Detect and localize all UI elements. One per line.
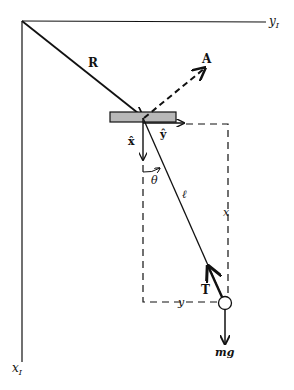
pendulum-bob [219, 297, 232, 310]
mg-label: mg [215, 346, 235, 359]
x-hat-label: x̂ [128, 135, 135, 148]
T-label: T [201, 283, 210, 297]
position-vector-R [22, 21, 143, 117]
y-inertial-label: yI [268, 14, 280, 30]
y-displacement-label: y [177, 296, 185, 309]
acceleration-vector-A [144, 68, 205, 118]
x-displacement-label: x [223, 206, 230, 219]
y-hat-label: ŷ [159, 128, 167, 141]
pendulum-diagram: yI xI R A x̂ ŷ θ ℓ x y T mg [0, 0, 294, 390]
angle-arc [143, 168, 160, 172]
y-inertial-axis [22, 21, 266, 22]
theta-label: θ [151, 174, 158, 187]
dashed-reference-box [186, 124, 228, 302]
tension-vector-T [208, 266, 222, 297]
x-inertial-label: xI [12, 361, 23, 377]
length-label: ℓ [182, 188, 187, 201]
R-label: R [88, 56, 99, 70]
A-label: A [201, 52, 212, 66]
